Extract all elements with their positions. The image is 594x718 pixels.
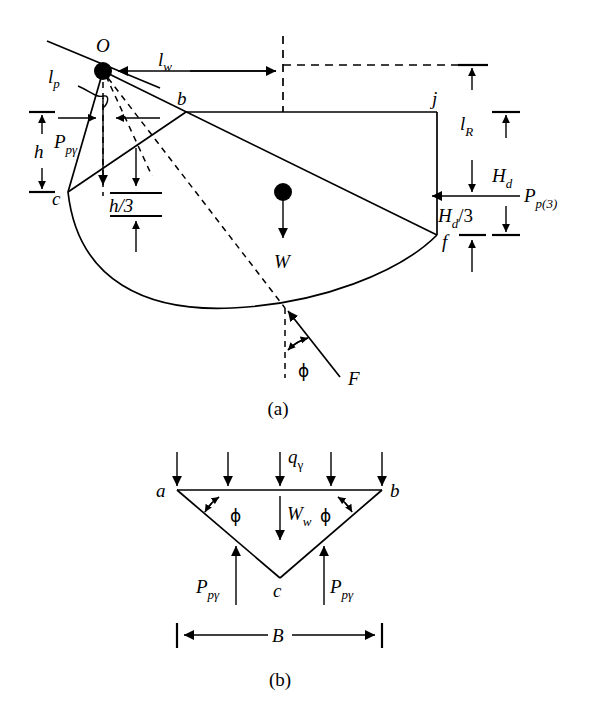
angle-label-phi-b-right: ϕ (320, 506, 331, 526)
figure-root: O lw lp Ppγ (0, 0, 594, 718)
force-label-w: W (274, 251, 292, 272)
point-label-j: j (429, 88, 437, 109)
figure-svg: O lw lp Ppγ (0, 0, 594, 718)
point-o-dot (94, 62, 112, 80)
point-label-f: f (442, 231, 450, 252)
dim-label-lp: lp (48, 66, 60, 91)
angle-label-phi-a: ϕ (298, 361, 309, 381)
angle-arc-phi-a-right (288, 338, 308, 350)
angle-arc-phi-b-right-up (338, 497, 352, 512)
angle-arc-phi-a-left (288, 338, 308, 350)
weight-centroid-dot (274, 183, 292, 201)
reaction-label-left: Ppγ (195, 576, 220, 602)
dim-label-lr: lR (460, 113, 473, 139)
dim-label-b: B (272, 625, 284, 646)
load-label-ww: Ww (287, 503, 312, 529)
angle-label-phi-b-left: ϕ (230, 506, 241, 526)
panel-a: O lw lp Ppγ (29, 35, 557, 420)
point-label-o: O (96, 35, 110, 56)
panel-b: qγ a b c Ww ϕ ϕ Ppγ (156, 446, 400, 691)
dim-label-lw: lw (158, 49, 172, 74)
load-label-q-gamma: qγ (288, 446, 304, 472)
dim-label-hd-over-3: Hd/3 (437, 205, 473, 231)
dim-label-hd: Hd (491, 165, 513, 191)
force-label-p-p3: Pp(3) (523, 185, 557, 211)
force-label-f: F (347, 368, 360, 389)
dim-label-h: h (34, 141, 44, 162)
point-label-c-b-panel: c (273, 580, 282, 601)
line-c-to-b (68, 112, 186, 192)
point-label-c: c (52, 188, 61, 209)
reaction-label-right: Ppγ (329, 576, 354, 602)
line-o-to-f (103, 71, 437, 235)
line-a-to-c (177, 490, 280, 578)
force-label-p-p-gamma: Ppγ (53, 131, 78, 157)
point-label-b: b (177, 88, 187, 109)
caption-panel-b: (b) (269, 669, 291, 691)
point-label-b-b-panel: b (390, 480, 400, 501)
dim-label-h-over-3: h/3 (109, 195, 133, 216)
caption-panel-a: (a) (267, 398, 288, 420)
angle-arc-phi-b-left-up (205, 497, 219, 512)
point-label-a-b-panel: a (156, 480, 166, 501)
